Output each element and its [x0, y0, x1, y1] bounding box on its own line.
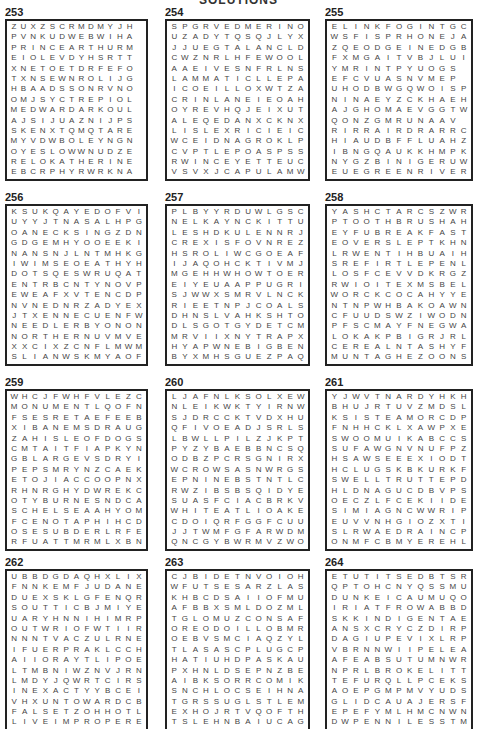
- grid-letter: D: [105, 147, 115, 157]
- grid-letter: K: [351, 614, 362, 624]
- grid-letter: I: [51, 717, 61, 727]
- grid-letter: A: [447, 614, 458, 624]
- grid-letter: N: [329, 157, 340, 167]
- grid-letter: U: [340, 593, 351, 603]
- grid-letter: Z: [92, 465, 102, 475]
- grid-letter: D: [40, 572, 50, 582]
- grid-letter: O: [415, 32, 426, 42]
- grid-letter: [134, 64, 144, 74]
- grid-letter: T: [40, 634, 50, 644]
- grid-letter: D: [295, 43, 306, 53]
- grid-letter: E: [383, 167, 394, 177]
- grid-letter: V: [30, 717, 40, 727]
- grid-letter: R: [82, 676, 92, 686]
- grid-letter: Y: [180, 342, 191, 352]
- grid-letter: N: [222, 136, 233, 146]
- grid-letter: C: [180, 465, 191, 475]
- grid-letter: U: [253, 167, 264, 177]
- grid-letter: C: [361, 290, 372, 300]
- grid-letter: E: [340, 342, 351, 352]
- grid-letter: O: [274, 269, 285, 279]
- grid-letter: P: [383, 634, 394, 644]
- grid-letter: O: [113, 707, 123, 717]
- grid-letter: S: [447, 697, 458, 707]
- grid-letter: T: [61, 444, 71, 454]
- grid-letter: C: [190, 686, 201, 696]
- grid-letter: R: [404, 217, 415, 227]
- grid-letter: C: [383, 290, 394, 300]
- letter-grid: CJBIDETNVOIOHWFUTSESARZLASKHBCDSAIIOFMUA…: [165, 569, 310, 729]
- grid-letter: E: [40, 301, 50, 311]
- grid-letter: P: [243, 280, 254, 290]
- grid-letter: I: [123, 572, 133, 582]
- grid-letter: K: [201, 676, 212, 686]
- grid-letter: I: [404, 517, 415, 527]
- grid-letter: E: [113, 413, 123, 423]
- grid-letter: A: [372, 126, 383, 136]
- grid-letter: P: [9, 43, 19, 53]
- grid-letter: V: [19, 301, 29, 311]
- grid-letter: H: [329, 486, 340, 496]
- grid-letter: X: [274, 413, 285, 423]
- grid-letter: O: [458, 593, 469, 603]
- grid-letter: S: [437, 582, 448, 592]
- grid-letter: M: [71, 423, 81, 433]
- grid-letter: R: [285, 454, 296, 464]
- grid-letter: B: [190, 603, 201, 613]
- grid-letter: I: [211, 84, 222, 94]
- grid-letter: A: [125, 167, 135, 177]
- grid-letter: Z: [190, 444, 201, 454]
- grid-letter: J: [180, 290, 191, 300]
- grid-letter: A: [458, 32, 469, 42]
- grid-letter: Z: [232, 614, 243, 624]
- grid-letter: Y: [71, 207, 81, 217]
- grid-letter: J: [9, 311, 19, 321]
- grid-letter: N: [123, 582, 133, 592]
- grid-letter: I: [372, 572, 383, 582]
- grid-letter: Q: [51, 269, 61, 279]
- grid-letter: E: [28, 64, 38, 74]
- grid-letter: O: [211, 321, 222, 331]
- grid-letter: K: [123, 238, 133, 248]
- grid-letter: E: [123, 413, 133, 423]
- grid-letter: L: [243, 228, 254, 238]
- grid-letter: L: [102, 634, 112, 644]
- grid-letter: N: [295, 342, 306, 352]
- grid-letter: S: [383, 238, 394, 248]
- grid-letter: R: [77, 167, 87, 177]
- grid-letter: S: [96, 53, 106, 63]
- grid-letter: A: [295, 74, 306, 84]
- grid-letter: E: [190, 64, 201, 74]
- grid-letter: C: [222, 413, 233, 423]
- grid-letter: Y: [372, 707, 383, 717]
- grid-letter: C: [82, 311, 92, 321]
- grid-letter: D: [71, 527, 81, 537]
- grid-letter: I: [253, 717, 264, 727]
- grid-letter: E: [82, 259, 92, 269]
- grid-letter: N: [169, 217, 180, 227]
- grid-letter: M: [372, 434, 383, 444]
- grid-letter: S: [264, 147, 275, 157]
- grid-letter: E: [102, 311, 112, 321]
- grid-letter: N: [86, 84, 96, 94]
- grid-letter: V: [9, 697, 19, 707]
- grid-letter: N: [394, 582, 405, 592]
- grid-letter: M: [351, 53, 362, 63]
- grid-letter: O: [361, 434, 372, 444]
- grid-letter: E: [404, 105, 415, 115]
- letter-grid: YASHCTARCSZWRPTOOTHBRUSHAHEYFUBREAKFASTE…: [325, 204, 473, 366]
- grid-letter: U: [426, 136, 437, 146]
- grid-letter: S: [243, 392, 254, 402]
- grid-letter: R: [40, 280, 50, 290]
- grid-letter: I: [82, 444, 92, 454]
- grid-letter: H: [169, 655, 180, 665]
- grid-letter: E: [134, 582, 144, 592]
- grid-letter: C: [61, 686, 71, 696]
- grid-letter: N: [264, 444, 275, 454]
- grid-letter: R: [61, 465, 71, 475]
- grid-letter: N: [404, 74, 415, 84]
- grid-letter: R: [169, 486, 180, 496]
- grid-letter: Q: [113, 269, 123, 279]
- grid-letter: H: [372, 582, 383, 592]
- grid-letter: B: [372, 655, 383, 665]
